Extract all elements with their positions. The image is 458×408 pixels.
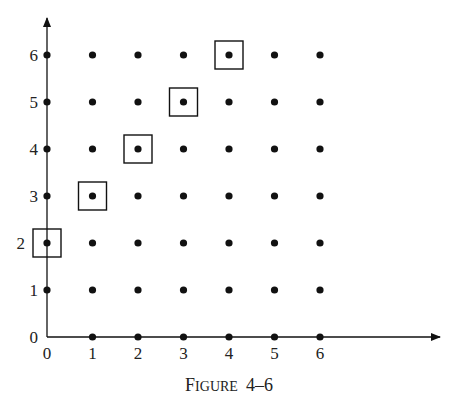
y-tick-label: 5 [30, 93, 39, 112]
lattice-point [271, 145, 278, 152]
lattice-point [271, 51, 278, 58]
x-tick-label: 2 [134, 344, 143, 363]
lattice-point [134, 286, 141, 293]
lattice-point [89, 51, 96, 58]
lattice-point [89, 98, 96, 105]
lattice-point [271, 286, 278, 293]
y-tick-labels: 0123456 [17, 46, 39, 347]
x-tick-label: 1 [88, 344, 97, 363]
lattice-point [89, 333, 96, 340]
x-tick-label: 0 [43, 344, 52, 363]
y-tick-label: 4 [30, 140, 39, 159]
lattice-point [43, 192, 50, 199]
lattice-point [316, 51, 323, 58]
lattice-point [43, 51, 50, 58]
x-tick-label: 5 [270, 344, 279, 363]
lattice-point [134, 192, 141, 199]
lattice-point [316, 145, 323, 152]
lattice-point [134, 51, 141, 58]
lattice-point [316, 98, 323, 105]
lattice-point [134, 333, 141, 340]
lattice-point [89, 192, 96, 199]
lattice-point [225, 98, 232, 105]
lattice-point [43, 145, 50, 152]
lattice-point [89, 239, 96, 246]
figure-caption: FIGURE4–6 [185, 375, 273, 395]
lattice-point [316, 286, 323, 293]
lattice-point [180, 192, 187, 199]
lattice-point [180, 51, 187, 58]
y-tick-label: 0 [30, 328, 39, 347]
lattice-point [316, 192, 323, 199]
lattice-point [43, 98, 50, 105]
y-tick-label: 6 [30, 46, 39, 65]
lattice-point [134, 145, 141, 152]
x-tick-labels: 0123456 [43, 344, 325, 363]
lattice-point [271, 239, 278, 246]
lattice-points [43, 51, 323, 340]
lattice-point [43, 286, 50, 293]
x-tick-label: 4 [225, 344, 234, 363]
lattice-point [225, 239, 232, 246]
x-tick-label: 6 [316, 344, 325, 363]
lattice-point [271, 192, 278, 199]
y-tick-label: 2 [17, 234, 26, 253]
lattice-point [180, 239, 187, 246]
lattice-point [316, 239, 323, 246]
y-tick-label: 3 [30, 187, 39, 206]
lattice-point [134, 98, 141, 105]
lattice-point [225, 192, 232, 199]
lattice-point [271, 98, 278, 105]
lattice-point [225, 145, 232, 152]
lattice-point [180, 333, 187, 340]
lattice-point [316, 333, 323, 340]
lattice-point [180, 98, 187, 105]
lattice-point [225, 333, 232, 340]
y-tick-label: 1 [30, 281, 39, 300]
lattice-point [180, 286, 187, 293]
lattice-point [43, 239, 50, 246]
lattice-point [180, 145, 187, 152]
lattice-point [89, 286, 96, 293]
x-tick-label: 3 [179, 344, 188, 363]
lattice-point [89, 145, 96, 152]
lattice-figure: 0123456 0123456 FIGURE4–6 [0, 0, 458, 408]
lattice-point [134, 239, 141, 246]
lattice-point [225, 51, 232, 58]
lattice-point [225, 286, 232, 293]
lattice-point [271, 333, 278, 340]
